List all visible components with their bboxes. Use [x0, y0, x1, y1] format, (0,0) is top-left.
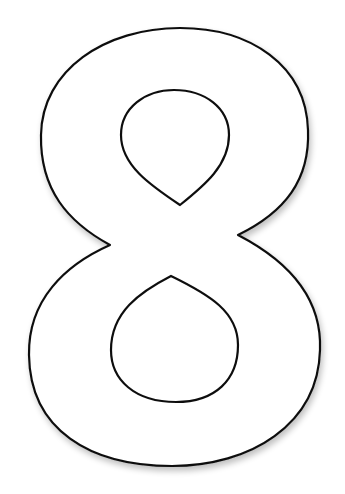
numeral-eight-figure: 8: [0, 0, 345, 494]
eight-outline-icon: [0, 0, 345, 494]
